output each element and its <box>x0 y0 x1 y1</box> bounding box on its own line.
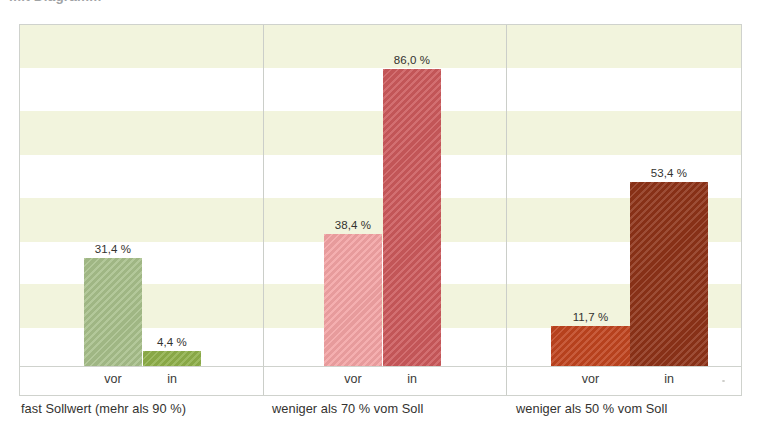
bar-texture <box>630 182 708 366</box>
page-title-fragment: mit Diagramm <box>9 0 101 5</box>
bar-value-label: 86,0 % <box>363 54 461 66</box>
bar-texture <box>143 351 201 366</box>
bar <box>551 326 630 366</box>
bar-value-label: 53,4 % <box>610 167 728 179</box>
bar <box>630 182 708 366</box>
bar-texture <box>383 69 441 366</box>
bar <box>143 351 201 366</box>
axis-tick-label: in <box>363 372 461 386</box>
axis-tick-label: in <box>123 372 221 386</box>
axis-panel-separator <box>263 367 264 395</box>
panel-separator <box>506 25 507 366</box>
axis-panel-separator <box>506 367 507 395</box>
group-caption: weniger als 50 % vom Soll <box>516 401 667 416</box>
category-axis-row: vorinvorinvorin <box>19 367 742 396</box>
bar <box>383 69 441 366</box>
bar <box>324 234 382 366</box>
background-band <box>20 111 741 155</box>
bar-texture <box>84 258 142 366</box>
bar-texture <box>551 326 630 366</box>
bar-value-label: 31,4 % <box>64 243 162 255</box>
group-caption: fast Sollwert (mehr als 90 %) <box>21 401 186 416</box>
bar-texture <box>324 234 382 366</box>
axis-tick-label: in <box>610 372 728 386</box>
bar <box>84 258 142 366</box>
bar-value-label: 4,4 % <box>123 336 221 348</box>
panel-separator <box>263 25 264 366</box>
group-caption: weniger als 70 % vom Soll <box>272 401 423 416</box>
scan-artifact-speck <box>722 380 725 382</box>
chart-plot-area: 31,4 %4,4 %38,4 %86,0 %11,7 %53,4 % <box>19 24 742 367</box>
